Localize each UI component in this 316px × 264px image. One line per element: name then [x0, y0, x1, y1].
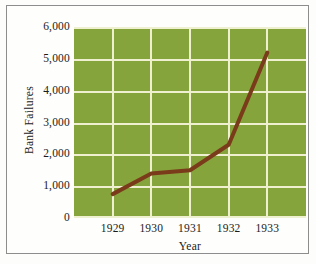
line-series-bank-failures	[74, 27, 306, 218]
y-axis-tick-label: 0	[10, 212, 70, 224]
x-axis-tick-labels: 19291930193119321933	[74, 223, 306, 239]
plot-area	[74, 27, 306, 218]
figure-frame: 01,0002,0003,0004,0005,0006,000 19291930…	[6, 5, 309, 254]
y-axis-tick-label: 5,000	[10, 53, 70, 65]
y-axis-tick-labels: 01,0002,0003,0004,0005,0006,000	[7, 27, 70, 218]
x-axis-title: Year	[74, 240, 306, 252]
chart-figure: 01,0002,0003,0004,0005,0006,000 19291930…	[0, 0, 316, 264]
y-axis-tick-label: 4,000	[10, 85, 70, 97]
y-axis-tick-label: 2,000	[10, 148, 70, 160]
y-axis-title: Bank Failures	[23, 65, 35, 175]
y-axis-tick-label: 6,000	[10, 21, 70, 33]
y-axis-tick-label: 1,000	[10, 180, 70, 192]
x-axis-tick-label: 1933	[244, 223, 290, 235]
y-axis-tick-label: 3,000	[10, 117, 70, 129]
